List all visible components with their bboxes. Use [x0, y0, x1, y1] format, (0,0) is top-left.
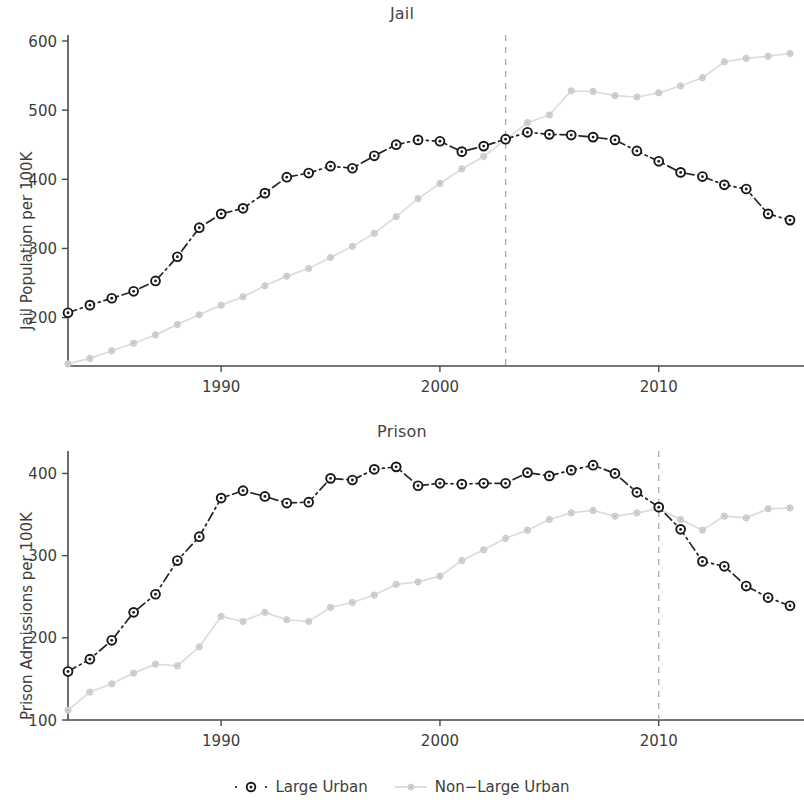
data-point-marker-core	[460, 483, 463, 486]
data-point-marker-core	[680, 85, 682, 87]
panel-jail-plot-area: 200300400500600199020002010	[0, 0, 804, 400]
data-point-marker-core	[417, 138, 420, 141]
data-point-marker-core	[220, 615, 222, 617]
data-point-marker-core	[373, 232, 375, 234]
data-point-marker-core	[439, 575, 441, 577]
data-point-marker-core	[132, 290, 135, 293]
series-line-non-large-urban	[68, 53, 790, 363]
x-tick-label: 1990	[202, 378, 240, 396]
data-point-marker-core	[548, 114, 550, 116]
y-tick-label: 300	[28, 547, 57, 565]
data-point-marker-core	[198, 535, 201, 538]
data-point-marker-core	[504, 482, 507, 485]
data-point-marker-core	[373, 154, 376, 157]
data-point-marker-core	[439, 482, 442, 485]
data-point-marker-core	[154, 593, 157, 596]
legend-item-large-urban: Large Urban	[234, 778, 367, 796]
data-point-marker-core	[745, 585, 748, 588]
data-point-marker-core	[67, 311, 70, 314]
data-point-marker-core	[285, 176, 288, 179]
x-tick-label: 2000	[421, 378, 459, 396]
data-point-marker-core	[439, 182, 441, 184]
data-point-marker-core	[526, 529, 528, 531]
data-point-marker-core	[67, 363, 69, 365]
y-tick-label: 400	[28, 171, 57, 189]
data-point-marker-core	[264, 192, 267, 195]
data-point-marker-core	[658, 92, 660, 94]
data-point-marker-core	[307, 172, 310, 175]
data-point-marker-core	[483, 549, 485, 551]
data-point-marker-core	[745, 188, 748, 191]
data-point-marker-core	[636, 96, 638, 98]
y-tick-label: 300	[28, 240, 57, 258]
data-point-marker-core	[132, 611, 135, 614]
data-point-marker-core	[548, 475, 551, 478]
data-point-marker-core	[723, 565, 726, 568]
data-point-marker-core	[723, 515, 725, 517]
data-point-marker-core	[570, 512, 572, 514]
data-point-marker-core	[351, 479, 354, 482]
data-point-marker-core	[110, 297, 113, 300]
data-point-marker-core	[745, 517, 747, 519]
data-point-marker-core	[176, 323, 178, 325]
data-point-marker-core	[767, 212, 770, 215]
data-point-marker-core	[482, 482, 485, 485]
data-point-marker-core	[198, 646, 200, 648]
data-point-marker-core	[417, 198, 419, 200]
series-markers-large-urban	[64, 461, 795, 676]
data-point-marker-core	[701, 529, 703, 531]
data-point-marker-core	[110, 639, 113, 642]
series-markers-large-urban	[64, 128, 795, 317]
data-point-marker-core	[88, 658, 91, 661]
data-point-marker-core	[767, 55, 769, 57]
data-point-marker-core	[285, 502, 288, 505]
series-markers-non-large-urban	[65, 505, 793, 713]
data-point-marker-core	[242, 207, 245, 210]
data-point-marker-core	[439, 140, 442, 143]
y-tick-label: 600	[28, 33, 57, 51]
data-point-marker-core	[680, 518, 682, 520]
data-point-marker-core	[88, 304, 91, 307]
data-point-marker-core	[242, 620, 244, 622]
data-point-marker-core	[526, 131, 529, 134]
data-point-marker-core	[329, 165, 332, 168]
data-point-marker-core	[286, 275, 288, 277]
data-point-marker-core	[526, 122, 528, 124]
x-tick-label: 2000	[421, 732, 459, 750]
series-line-large-urban	[68, 465, 790, 671]
data-point-marker-core	[308, 267, 310, 269]
x-tick-label: 2010	[640, 732, 678, 750]
data-point-marker-core	[701, 175, 704, 178]
data-point-marker-core	[592, 90, 594, 92]
figure-two-panel-incarceration-trends: Jail Jail Population per 100K 2003004005…	[0, 0, 804, 807]
data-point-marker-core	[504, 537, 506, 539]
data-point-marker-core	[592, 464, 595, 467]
data-point-marker-core	[723, 61, 725, 63]
data-point-marker-core	[395, 465, 398, 468]
data-point-marker-core	[395, 583, 397, 585]
data-point-marker-core	[461, 559, 463, 561]
data-point-marker-core	[592, 509, 594, 511]
data-point-marker-core	[504, 138, 507, 141]
data-point-marker-core	[67, 709, 69, 711]
series-line-non-large-urban	[68, 508, 790, 710]
data-point-marker-core	[176, 559, 179, 562]
data-point-marker-core	[635, 491, 638, 494]
data-point-marker-core	[308, 620, 310, 622]
data-point-marker-core	[111, 350, 113, 352]
panel-jail-svg: 200300400500600199020002010	[0, 0, 804, 400]
data-point-marker-core	[767, 596, 770, 599]
data-point-marker-core	[592, 136, 595, 139]
legend-label-large-urban: Large Urban	[275, 778, 367, 796]
data-point-marker-core	[351, 167, 354, 170]
data-point-marker-core	[789, 219, 792, 222]
data-point-marker-core	[570, 469, 573, 472]
data-point-marker-core	[657, 506, 660, 509]
data-point-marker-core	[395, 143, 398, 146]
y-tick-label: 500	[28, 102, 57, 120]
data-point-marker-core	[767, 508, 769, 510]
data-point-marker-core	[198, 226, 201, 229]
data-point-marker-core	[789, 52, 791, 54]
data-point-marker-core	[351, 601, 353, 603]
data-point-marker-core	[570, 134, 573, 137]
